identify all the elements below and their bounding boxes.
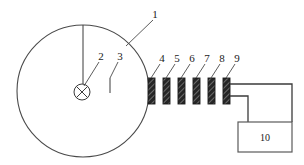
leader-5 (166, 64, 175, 78)
leader-3 (110, 62, 118, 78)
callout-label-7: 7 (204, 52, 210, 64)
callout-label-6: 6 (189, 52, 195, 64)
callout-label-9: 9 (234, 52, 240, 64)
callout-label-1: 1 (152, 8, 158, 20)
leader-7 (196, 64, 205, 78)
wire-upper (230, 84, 292, 122)
plate-8 (208, 78, 215, 104)
leader-6 (181, 64, 190, 78)
wiring (230, 84, 292, 122)
plate-stack (148, 78, 230, 104)
leader-2 (84, 62, 99, 86)
leader-1 (126, 20, 153, 46)
plate-5 (163, 78, 170, 104)
instrument-box-label: 10 (260, 132, 270, 143)
plate-4 (148, 78, 155, 104)
leader-9 (226, 64, 235, 78)
callout-label-4: 4 (159, 52, 165, 64)
callout-label-5: 5 (174, 52, 180, 64)
callout-label-2: 2 (98, 50, 104, 62)
source-crossed-circle-icon (74, 84, 90, 100)
leader-4 (151, 64, 160, 78)
leader-8 (211, 64, 220, 78)
callout-label-8: 8 (219, 52, 225, 64)
plate-9 (223, 78, 230, 104)
wire-lower (230, 96, 248, 122)
plate-7 (193, 78, 200, 104)
diagram-canvas: 1 2 3 4 5 6 7 8 9 10 (0, 0, 304, 165)
plate-6 (178, 78, 185, 104)
callout-label-3: 3 (117, 50, 123, 62)
apparatus-schematic: 1 2 3 4 5 6 7 8 9 10 (0, 0, 304, 165)
